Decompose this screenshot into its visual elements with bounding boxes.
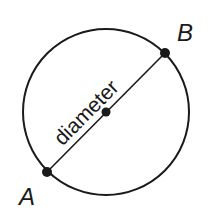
point-b-label: B	[177, 19, 193, 46]
circle-diameter-diagram: A B diameter	[0, 0, 213, 217]
point-a-label: A	[17, 183, 35, 210]
point-b	[160, 48, 170, 58]
diagram-canvas: A B diameter	[0, 0, 213, 217]
diameter-label: diameter	[49, 75, 123, 149]
point-a	[42, 167, 52, 177]
